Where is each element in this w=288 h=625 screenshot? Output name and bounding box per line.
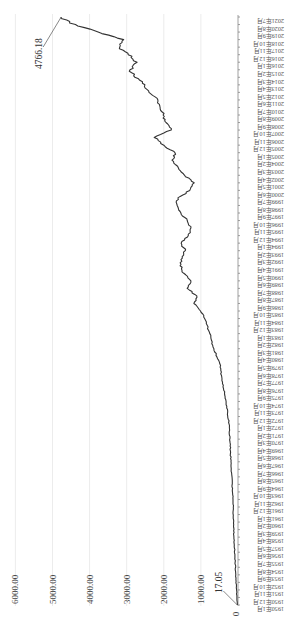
value-tick-label: 2000.00	[159, 574, 169, 604]
annotation-leader-line	[223, 591, 237, 605]
value-tick-label: 0	[231, 611, 241, 616]
annotation-label: 17.05	[214, 571, 224, 593]
index-line	[61, 17, 237, 605]
category-axis-labels: 1950年1月1950年12月1951年11月1952年10月1953年9月19…	[253, 17, 284, 613]
rotated-line-chart: 01000.002000.003000.004000.005000.006000…	[0, 0, 288, 625]
value-gridlines	[15, 14, 201, 606]
category-tick-label: 2021年7月	[257, 17, 284, 25]
value-tick-label: 3000.00	[122, 574, 132, 604]
value-tick-label: 5000.00	[48, 574, 58, 604]
value-tick-label: 6000.00	[10, 574, 20, 604]
data-annotations: 17.054766.18	[34, 17, 237, 605]
value-tick-label: 1000.00	[196, 574, 206, 604]
category-axis	[238, 15, 240, 606]
value-tick-label: 4000.00	[85, 574, 95, 604]
value-axis-labels: 01000.002000.003000.004000.005000.006000…	[10, 574, 241, 616]
annotation-label: 4766.18	[34, 38, 44, 69]
